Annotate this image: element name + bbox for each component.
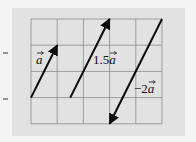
vector-label: 1.5a <box>93 52 116 67</box>
diagram-canvas: a1.5a−2a <box>0 0 196 142</box>
diagram-panel <box>12 8 185 136</box>
vector-diagram: a1.5a−2a <box>0 0 196 142</box>
margin-ticks <box>3 53 8 99</box>
vector-label: −2a <box>134 81 155 96</box>
